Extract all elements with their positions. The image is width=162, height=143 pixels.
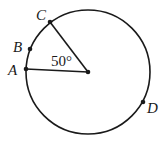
- point-a: [24, 67, 29, 72]
- radius-to-a: [26, 69, 88, 72]
- point-c: [48, 20, 53, 25]
- label-c: C: [36, 7, 47, 23]
- circle-diagram: A B C D 50°: [0, 0, 162, 143]
- center-point: [86, 70, 91, 75]
- point-d: [141, 100, 146, 105]
- angle-label: 50°: [51, 53, 72, 69]
- label-d: D: [146, 100, 158, 116]
- label-b: B: [13, 39, 22, 55]
- label-a: A: [7, 62, 18, 78]
- point-b: [28, 47, 33, 52]
